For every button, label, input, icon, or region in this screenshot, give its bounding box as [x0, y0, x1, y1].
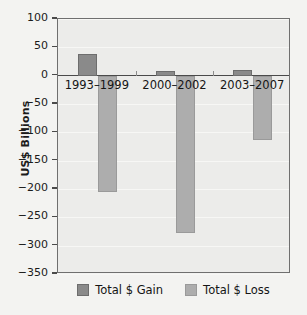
gridline: [58, 217, 289, 218]
category-label: 2003–2007: [213, 78, 291, 92]
category-separator-tick: [136, 71, 137, 76]
legend-label: Total $ Loss: [203, 283, 270, 297]
bar-loss: [98, 76, 117, 192]
y-axis-tick-label: 100: [2, 11, 48, 24]
y-axis-tick-label: −350: [2, 266, 48, 279]
category-label: 2000–2002: [136, 78, 214, 92]
plot-area: 1993–19992000–20022003–2007: [57, 18, 290, 273]
bar-gain: [156, 71, 175, 76]
bar-gain: [233, 70, 252, 76]
bar-loss: [176, 76, 195, 234]
y-axis-tick-label: 0: [2, 68, 48, 81]
chart-figure: WORKS IN NUMBERS US$ Billions 100500−50−…: [0, 0, 307, 315]
gridline: [58, 246, 289, 247]
gridline: [58, 189, 289, 190]
chart-legend: Total $ GainTotal $ Loss: [57, 283, 290, 297]
y-axis-tick-label: 50: [2, 39, 48, 52]
gridline: [58, 19, 289, 20]
legend-item: Total $ Gain: [77, 283, 163, 297]
category-label: 1993–1999: [58, 78, 136, 92]
y-axis-tick-label: −150: [2, 153, 48, 166]
legend-label: Total $ Gain: [95, 283, 163, 297]
bar-gain: [78, 54, 97, 76]
legend-swatch-icon: [77, 284, 89, 296]
gridline: [58, 161, 289, 162]
y-axis-tick-label: −50: [2, 96, 48, 109]
gridline: [58, 47, 289, 48]
y-axis-tick-label: −250: [2, 209, 48, 222]
y-axis-tick-label: −300: [2, 238, 48, 251]
y-axis-tick-label: −200: [2, 181, 48, 194]
gridline: [58, 274, 289, 275]
category-separator-tick: [213, 71, 214, 76]
legend-swatch-icon: [185, 284, 197, 296]
y-axis-tick-label: −100: [2, 124, 48, 137]
legend-item: Total $ Loss: [185, 283, 270, 297]
